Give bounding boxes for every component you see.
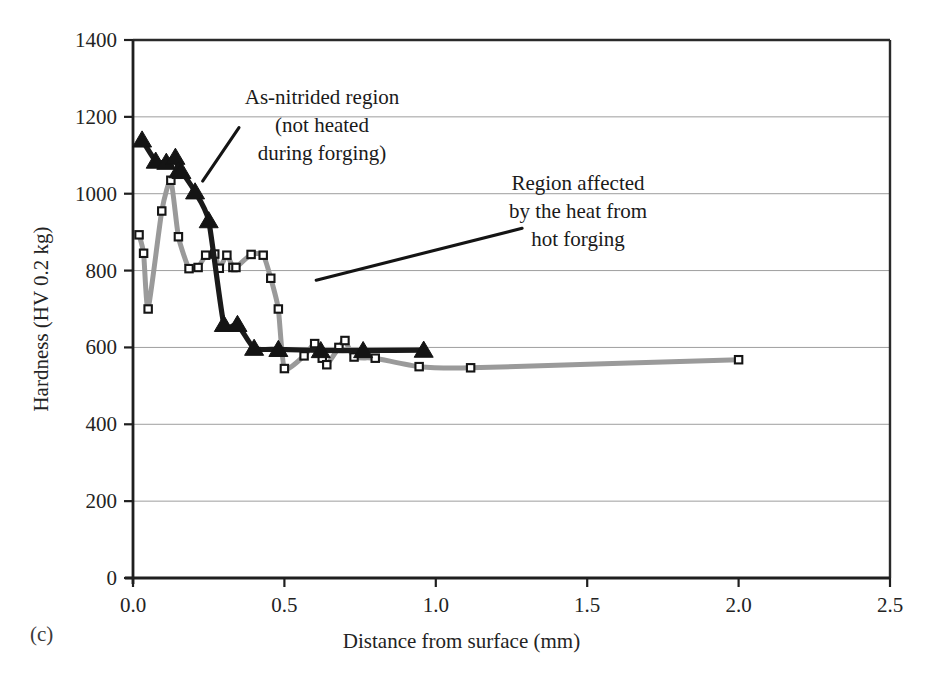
y-tick-label-800: 800: [86, 259, 118, 283]
x-tick-label-2.5: 2.5: [877, 593, 903, 617]
x-tick-label-0.5: 0.5: [271, 593, 297, 617]
annotation-line: Region affected: [511, 171, 645, 195]
x-axis-title: Distance from surface (mm): [343, 629, 580, 653]
data-point-square: [223, 252, 230, 259]
data-point-square: [158, 207, 165, 214]
data-point-square: [260, 252, 267, 259]
x-tick-label-1.5: 1.5: [574, 593, 600, 617]
y-tick-label-0: 0: [107, 566, 118, 590]
annotation-line: during forging): [258, 141, 387, 165]
annotation-line: (not heated: [275, 113, 369, 137]
y-tick-label-1400: 1400: [75, 28, 117, 52]
annotation-line: hot forging: [531, 227, 625, 251]
x-tick-label-0: 0.0: [120, 593, 146, 617]
figure-panel-c: 0.00.51.01.52.02.5 020040060080010001200…: [0, 0, 941, 688]
y-axis-title: Hardness (HV 0.2 kg): [29, 226, 53, 411]
data-point-square: [135, 231, 142, 238]
x-tick-label-2: 2.0: [725, 593, 751, 617]
hardness-profile-chart: 0.00.51.01.52.02.5 020040060080010001200…: [0, 0, 941, 688]
data-point-square: [140, 250, 147, 257]
data-point-square: [275, 305, 282, 312]
y-tick-label-200: 200: [86, 489, 118, 513]
y-tick-label-600: 600: [86, 335, 118, 359]
data-point-square: [267, 275, 274, 282]
panel-label: (c): [30, 622, 53, 646]
data-point-square: [311, 340, 318, 347]
annotation-line: by the heat from: [509, 199, 647, 223]
data-point-square: [247, 251, 254, 258]
data-point-square: [323, 361, 330, 368]
x-tick-label-1: 1.0: [423, 593, 449, 617]
annotation-line: As-nitrided region: [245, 85, 400, 109]
y-tick-label-1000: 1000: [75, 182, 117, 206]
chart-background: [0, 0, 941, 688]
data-point-square: [735, 356, 742, 363]
data-point-square: [341, 337, 348, 344]
data-point-square: [194, 264, 201, 271]
data-point-square: [415, 363, 422, 370]
data-point-square: [144, 305, 151, 312]
data-point-square: [467, 364, 474, 371]
data-point-square: [175, 233, 182, 240]
data-point-square: [300, 352, 307, 359]
data-point-square: [372, 354, 379, 361]
data-point-square: [232, 264, 239, 271]
data-point-square: [281, 365, 288, 372]
data-point-square: [185, 265, 192, 272]
y-tick-label-1200: 1200: [75, 105, 117, 129]
data-point-square: [202, 252, 209, 259]
y-tick-label-400: 400: [86, 412, 118, 436]
